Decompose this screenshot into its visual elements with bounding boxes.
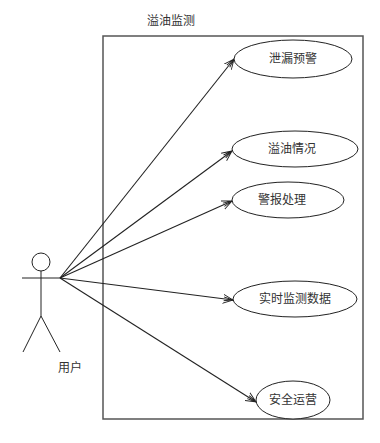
actor-label: 用户 bbox=[58, 360, 82, 375]
association-uc3 bbox=[60, 201, 232, 278]
use-case-alarm-handling[interactable]: 警报处理 bbox=[232, 182, 344, 218]
use-case-safe-operation[interactable]: 安全运营 bbox=[256, 381, 330, 419]
use-case-realtime-data[interactable]: 实时监测数据 bbox=[233, 281, 357, 317]
use-case-diagram: 溢油监测 用户 泄漏预警 溢油情况 警报处理 实时监测数据 安全运营 bbox=[0, 0, 380, 443]
use-case-label: 警报处理 bbox=[258, 192, 306, 207]
association-uc5 bbox=[60, 278, 256, 402]
associations bbox=[60, 59, 256, 402]
actor-right-leg bbox=[41, 316, 60, 352]
use-case-label: 泄漏预警 bbox=[269, 51, 317, 66]
use-case-leak-warning[interactable]: 泄漏预警 bbox=[234, 40, 352, 78]
actor-left-leg bbox=[23, 316, 41, 352]
actor-user[interactable]: 用户 bbox=[22, 253, 82, 375]
use-case-label: 实时监测数据 bbox=[259, 291, 331, 306]
actor-head-icon bbox=[32, 253, 50, 271]
use-case-label: 安全运营 bbox=[269, 392, 317, 407]
use-case-label: 溢油情况 bbox=[268, 142, 316, 156]
association-uc4 bbox=[60, 278, 233, 300]
use-case-spill-status[interactable]: 溢油情况 bbox=[232, 131, 358, 167]
system-title: 溢油监测 bbox=[147, 14, 195, 28]
